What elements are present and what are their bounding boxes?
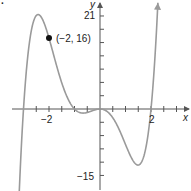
highlighted-point-marker: [46, 35, 52, 41]
x-axis-label: x: [183, 113, 188, 123]
y-axis-label: y: [90, 0, 95, 10]
function-graph: [0, 0, 191, 191]
y-tick-label-neg15: −15: [77, 172, 94, 182]
function-curve: [19, 3, 158, 191]
x-tick-label-2: 2: [149, 115, 155, 125]
x-tick-label-neg2: −2: [41, 115, 52, 125]
point-label: (−2, 16): [56, 34, 91, 44]
figure-corner-label: .: [1, 0, 4, 6]
y-tick-label-21: 21: [84, 11, 95, 21]
curve-arrowhead: [154, 3, 161, 10]
